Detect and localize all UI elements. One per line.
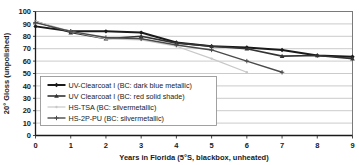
y-tick-label: 100 xyxy=(18,7,31,16)
x-tick-label: 3 xyxy=(139,141,143,150)
y-tick-label: 80 xyxy=(23,32,31,41)
x-tick-label: 9 xyxy=(350,141,354,150)
data-point-marker xyxy=(210,57,212,59)
y-tick-label: 70 xyxy=(23,44,31,53)
legend-entry-label: HS-2P-PU (BC: silvermetallic) xyxy=(69,114,164,123)
data-point-marker xyxy=(246,71,248,73)
chart-legend: UV-Clearcoat I (BC: dark blue metallic)U… xyxy=(41,77,217,126)
x-tick-label: 2 xyxy=(104,141,108,150)
x-tick-label: 0 xyxy=(33,141,37,150)
y-axis-title: 20° Gloss (unpolished) xyxy=(2,32,11,114)
x-tick-label: 5 xyxy=(210,141,214,150)
x-axis-title: Years in Florida (5°S, blackbox, unheate… xyxy=(119,153,269,162)
chart-canvas: 01020304050607080901000123456789Years in… xyxy=(0,0,359,165)
x-tick-label: 7 xyxy=(280,141,284,150)
y-tick-label: 0 xyxy=(27,131,31,140)
y-tick-label: 10 xyxy=(23,119,31,128)
y-tick-label: 30 xyxy=(23,94,31,103)
y-tick-label: 40 xyxy=(23,82,31,91)
x-tick-label: 4 xyxy=(174,141,179,150)
x-tick-label: 1 xyxy=(69,141,73,150)
legend-entry[interactable]: UV Clearcoat I (BC: red solid shade) xyxy=(48,92,185,101)
y-tick-label: 50 xyxy=(23,69,31,78)
legend-entry[interactable]: UV-Clearcoat I (BC: dark blue metallic) xyxy=(48,81,192,90)
legend-entry-label: UV Clearcoat I (BC: red solid shade) xyxy=(69,92,185,101)
x-tick-label: 8 xyxy=(315,141,319,150)
x-tick-label: 6 xyxy=(245,141,249,150)
legend-entry-label: HS-TSA (BC: silvermetallic) xyxy=(69,103,157,112)
y-tick-label: 60 xyxy=(23,57,31,66)
y-tick-label: 90 xyxy=(23,20,31,29)
gloss-weathering-chart: 01020304050607080901000123456789Years in… xyxy=(0,0,359,165)
legend-entry-label: UV-Clearcoat I (BC: dark blue metallic) xyxy=(69,81,192,90)
y-tick-label: 20 xyxy=(23,106,31,115)
data-point-marker xyxy=(55,106,57,108)
